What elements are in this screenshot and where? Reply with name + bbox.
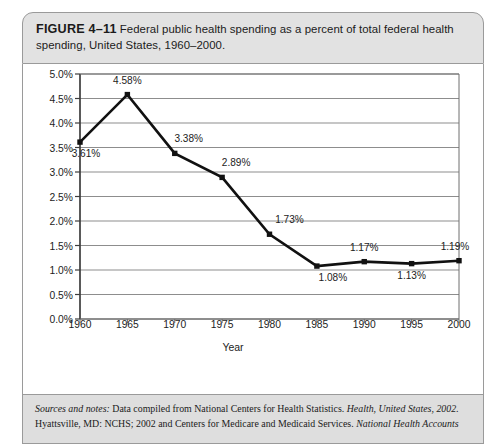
y-axis-tick-label: 3.5%: [37, 142, 73, 153]
data-point-label: 1.17%: [350, 242, 379, 253]
data-point-label: 4.58%: [113, 75, 142, 86]
notes-lead-label: Sources and notes:: [35, 403, 110, 414]
x-axis-tick-label: 1965: [116, 319, 139, 330]
notes-body-2: Hyattsville, MD: NCHS; 2002 and Centers …: [35, 418, 356, 429]
x-axis-tick-label: 2000: [448, 319, 471, 330]
y-axis-tick-label: 3.0%: [37, 167, 73, 178]
x-axis-tick-label: 1980: [258, 319, 281, 330]
data-point-marker: [219, 175, 224, 180]
data-point-marker: [125, 92, 130, 97]
x-axis-tick-label: 1975: [211, 319, 234, 330]
data-point-marker: [267, 232, 272, 237]
figure-number-label: FIGURE 4–11: [36, 22, 117, 36]
y-axis-tick-label: 2.0%: [37, 216, 73, 227]
y-axis-tick-label: 1.5%: [37, 240, 73, 251]
data-point-label: 1.19%: [441, 241, 470, 252]
y-axis-tick-label: 5.0%: [37, 69, 73, 80]
data-point-label: 3.61%: [72, 148, 101, 159]
x-axis-tick-labels: 196019651970197519801985199019952000: [23, 319, 485, 335]
figure-card: FIGURE 4–11 Federal public health spendi…: [22, 12, 484, 424]
data-point-label: 2.89%: [222, 157, 251, 168]
x-axis-tick-label: 1990: [353, 319, 376, 330]
chart-panel: 0.0%0.5%1.0%1.5%2.0%2.5%3.0%3.5%4.0%4.5%…: [22, 64, 484, 394]
data-point-marker: [314, 263, 319, 268]
notes-body-1: Data compiled from National Centers for …: [110, 403, 347, 414]
x-axis-tick-label: 1960: [69, 319, 92, 330]
data-point-label: 1.73%: [275, 214, 304, 225]
y-axis-tick-label: 4.0%: [37, 118, 73, 129]
figure-caption-band: FIGURE 4–11 Federal public health spendi…: [22, 12, 484, 64]
x-axis-title: Year: [23, 341, 443, 353]
x-axis-tick-label: 1970: [163, 319, 186, 330]
data-point-marker: [409, 261, 414, 266]
y-axis-tick-label: 1.0%: [37, 265, 73, 276]
y-axis-tick-label: 2.5%: [37, 191, 73, 202]
y-axis-tick-label: 0.5%: [37, 289, 73, 300]
data-point-marker: [456, 258, 461, 263]
x-axis-tick-label: 1995: [400, 319, 423, 330]
notes-italic-1: Health, United States, 2002.: [347, 403, 459, 414]
x-axis-tick-label: 1985: [305, 319, 328, 330]
figure-caption: FIGURE 4–11 Federal public health spendi…: [36, 21, 471, 53]
data-point-label: 3.38%: [174, 133, 203, 144]
source-notes: Sources and notes: Data compiled from Na…: [35, 402, 473, 431]
y-axis-tick-label: 4.5%: [37, 93, 73, 104]
data-point-marker: [172, 151, 177, 156]
data-point-marker: [77, 139, 82, 144]
data-point-label: 1.08%: [319, 272, 348, 283]
source-notes-band: Sources and notes: Data compiled from Na…: [22, 394, 484, 444]
data-point-marker: [362, 259, 367, 264]
gridlines: [80, 74, 459, 319]
axis-ticks: [75, 74, 459, 323]
data-point-markers: [77, 92, 461, 269]
notes-italic-2: National Health Accounts: [356, 418, 458, 429]
data-series-line: [80, 95, 459, 267]
line-chart: 0.0%0.5%1.0%1.5%2.0%2.5%3.0%3.5%4.0%4.5%…: [23, 64, 485, 394]
data-point-label: 1.13%: [397, 270, 426, 281]
